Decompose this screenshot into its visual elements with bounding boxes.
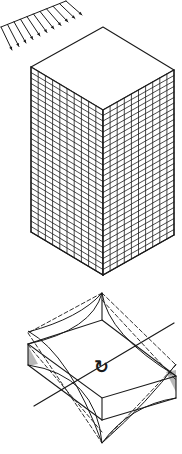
rotation-arrow-icon: ↻ [94,356,109,377]
diagram-svg: ↻ [0,0,182,454]
wind-load-arrows [1,1,82,50]
structural-diagram: ↻ [0,0,182,454]
building-block [31,27,174,275]
torsion-detail: ↻ [28,293,176,443]
